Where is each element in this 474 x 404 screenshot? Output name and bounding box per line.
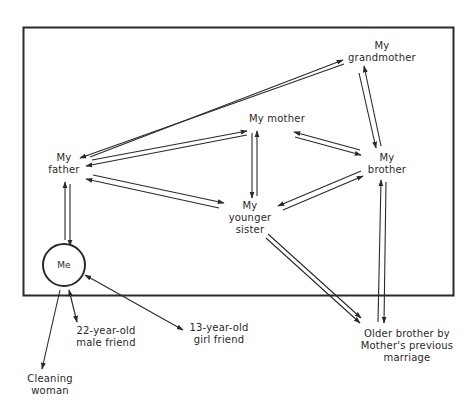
arrow-father-to-sister [93,175,224,203]
arrow-brother-to-older-brother [384,182,386,323]
arrow-mother-to-brother [295,137,361,155]
arrow-father-to-grandmother [90,60,343,157]
node-label-line: marriage [361,352,454,364]
node-label-line: brother [368,164,406,176]
node-father: My father [48,152,79,176]
node-label-line: 22-year-old [76,325,135,337]
arrow-sister-to-father [86,179,219,208]
arrow-me-to-cleaning-woman [42,290,60,369]
arrow-me-girl-friend [85,275,183,330]
node-label-line: male friend [76,337,135,349]
node-brother: My brother [368,152,406,176]
node-mother: My mother [249,113,305,125]
node-older-brother: Older brother by Mother's previous marri… [361,328,454,364]
node-label-line: My [229,200,272,212]
arrow-brother-to-mother [294,132,360,150]
node-male-friend: 22-year-old male friend [76,325,135,349]
node-label-line: My [348,40,416,52]
node-label-line: younger [229,212,272,224]
node-label-line: Mother's previous [361,340,454,352]
arrow-grandmother-to-father [80,64,344,158]
node-label-line: woman [27,385,72,397]
arrow-sister-to-brother [283,176,363,210]
node-label-line: My [368,152,406,164]
node-label-line: 13-year-old [189,322,248,334]
node-label-line: Cleaning [27,373,72,385]
node-cleaning-woman: Cleaning woman [27,373,72,397]
node-label-line: grandmother [348,52,416,64]
node-label-line: My [48,152,79,164]
node-label-line: father [48,164,79,176]
node-label-line: My mother [249,113,305,125]
arrow-brother-to-sister [278,171,361,206]
node-label-line: Older brother by [361,328,454,340]
node-label-line: sister [229,224,272,236]
arrow-sister-to-older-brother-2 [266,238,360,323]
node-label-line: girl friend [189,334,248,346]
arrow-mother-to-father [86,135,247,166]
node-younger-sister: My younger sister [229,200,272,236]
node-girl-friend: 13-year-old girl friend [189,322,248,346]
arrow-older-brother-to-brother [378,180,381,322]
arrow-sister-to-older-brother-1 [268,234,361,318]
node-grandmother: My grandmother [348,40,416,64]
node-me: Me [57,260,70,270]
